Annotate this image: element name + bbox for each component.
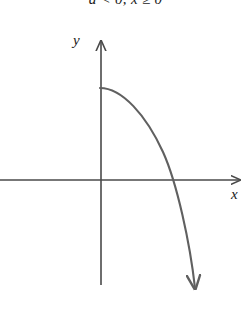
x-axis-label: x (231, 186, 238, 203)
y-axis-label: y (73, 32, 80, 49)
parabola-curve (100, 88, 195, 288)
plot-canvas (0, 0, 251, 311)
parabola-figure: a < 0, x ≥ 0 y x (0, 0, 251, 311)
